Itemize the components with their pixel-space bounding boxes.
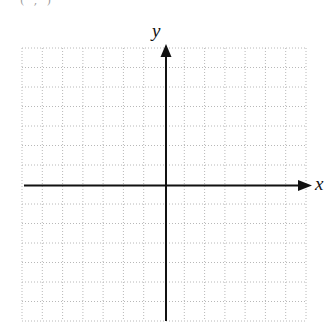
coordinate-plane	[0, 0, 333, 330]
x-axis-arrow-icon	[298, 180, 312, 191]
x-axis-label: x	[315, 173, 323, 195]
y-axis-arrow-icon	[161, 44, 172, 57]
y-axis	[161, 44, 172, 321]
y-axis-label: y	[152, 20, 160, 42]
x-axis	[24, 180, 312, 191]
